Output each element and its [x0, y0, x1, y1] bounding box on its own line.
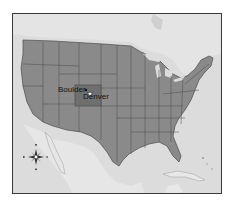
- city-label-denver: Denver: [83, 93, 109, 101]
- city-label-boulder: Boulder: [58, 86, 86, 94]
- map-frame: Boulder Denver: [12, 13, 222, 194]
- us-map: [13, 14, 222, 194]
